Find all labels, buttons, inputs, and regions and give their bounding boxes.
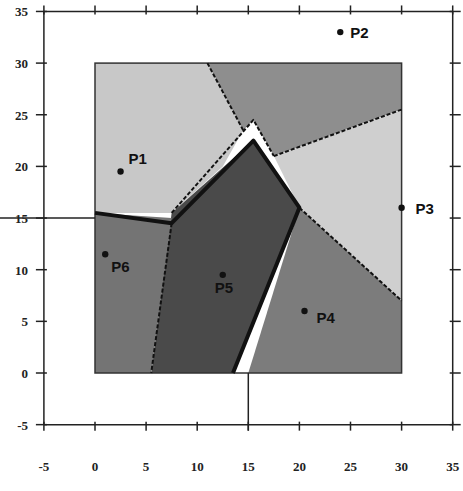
x-tick-label: 15 bbox=[242, 459, 256, 474]
point-marker bbox=[301, 308, 307, 314]
x-tick-label: -5 bbox=[38, 459, 49, 474]
y-tick-label: 25 bbox=[15, 108, 29, 123]
y-tick-label: 0 bbox=[22, 366, 29, 381]
y-tick-label: 5 bbox=[22, 314, 29, 329]
point-marker bbox=[220, 272, 226, 278]
y-tick-label: 15 bbox=[15, 211, 29, 226]
point-marker bbox=[117, 168, 123, 174]
point-marker bbox=[337, 29, 343, 35]
y-tick-label: 20 bbox=[15, 159, 28, 174]
point-label: P5 bbox=[215, 279, 233, 296]
point-label: P3 bbox=[416, 200, 434, 217]
point-label: P6 bbox=[111, 258, 129, 275]
point-marker bbox=[102, 251, 108, 257]
y-tick-label: 35 bbox=[15, 4, 29, 19]
x-tick-label: 20 bbox=[293, 459, 306, 474]
y-tick-label: 10 bbox=[15, 263, 28, 278]
voronoi-chart: -505101520253035-505101520253035 P1P2P3P… bbox=[0, 0, 463, 491]
x-tick-label: 35 bbox=[446, 459, 460, 474]
point-label: P1 bbox=[129, 150, 147, 167]
x-tick-label: 5 bbox=[143, 459, 150, 474]
x-tick-label: 10 bbox=[191, 459, 204, 474]
point-p2: P2 bbox=[337, 24, 369, 41]
y-tick-label: -5 bbox=[17, 418, 28, 433]
point-p3: P3 bbox=[398, 200, 434, 217]
y-tick-label: 30 bbox=[15, 56, 28, 71]
x-tick-label: 30 bbox=[395, 459, 408, 474]
point-label: P4 bbox=[317, 309, 336, 326]
x-tick-label: 0 bbox=[92, 459, 99, 474]
point-marker bbox=[398, 205, 404, 211]
point-label: P2 bbox=[350, 24, 368, 41]
x-tick-label: 25 bbox=[344, 459, 358, 474]
